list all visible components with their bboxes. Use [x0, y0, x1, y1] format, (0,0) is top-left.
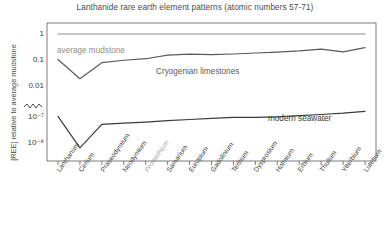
x-axis-ticks: [58, 161, 365, 165]
series-label-modern-seawater: modern seawater: [268, 114, 331, 123]
plot-frame: [47, 23, 376, 161]
plot-area: [0, 0, 390, 230]
series-label-average-mudstone: average mudstone: [57, 46, 125, 55]
series-label-cryogenian-limestones: Cryogenian limestones: [156, 67, 239, 76]
chart-figure: Lanthanide rare earth element patterns (…: [0, 0, 390, 230]
